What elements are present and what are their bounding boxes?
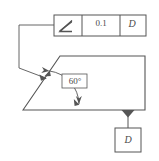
tolerance-value: 0.1 bbox=[88, 19, 114, 28]
angle-arc-arrow-start-icon bbox=[44, 71, 51, 77]
angle-dimension-label: 60° bbox=[64, 77, 86, 86]
technical-drawing-canvas: 0.1 D 60° D bbox=[0, 0, 159, 161]
datum-reference-letter: D bbox=[124, 19, 140, 29]
datum-triangle-icon bbox=[122, 110, 135, 118]
datum-feature-letter: D bbox=[119, 135, 137, 145]
leader-line bbox=[19, 25, 54, 78]
